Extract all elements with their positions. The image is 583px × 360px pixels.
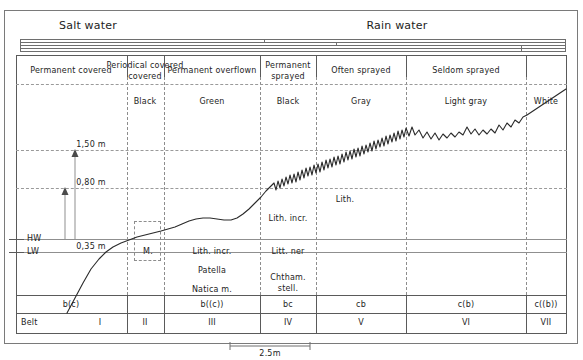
- diagram-page: Salt water Rain water: [0, 0, 583, 360]
- scale-bar-label: 2.5m: [259, 349, 280, 358]
- scale-bar: [5, 11, 579, 345]
- diagram-frame: Salt water Rain water: [4, 10, 578, 344]
